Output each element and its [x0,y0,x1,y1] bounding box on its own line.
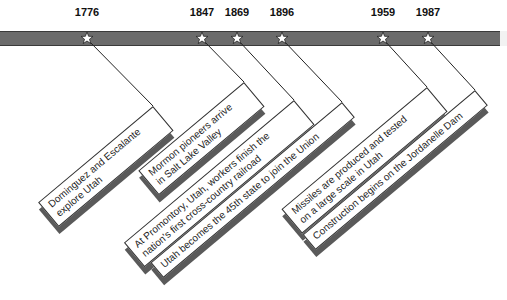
star-icon [195,31,209,45]
star-icon [275,31,289,45]
star-icon [80,31,94,45]
star-icon [230,31,244,45]
star-icon [421,31,435,45]
star-icon [376,31,390,45]
